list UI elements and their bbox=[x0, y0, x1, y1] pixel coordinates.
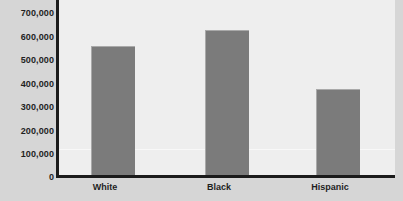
y-tick-label-100000: 100,000 bbox=[0, 149, 54, 159]
bar-chart-figure: 700,000 600,000 500,000 400,000 300,000 … bbox=[0, 0, 403, 201]
x-category-label-black: Black bbox=[183, 182, 255, 193]
x-category-label-hispanic: Hispanic bbox=[294, 182, 366, 193]
y-axis-line bbox=[56, 0, 59, 178]
y-tick-label-600000: 600,000 bbox=[0, 32, 54, 42]
bar-black bbox=[205, 30, 249, 176]
bar-white bbox=[91, 46, 135, 176]
y-tick-label-0: 0 bbox=[0, 172, 54, 182]
x-axis-line bbox=[56, 175, 395, 178]
y-tick-label-400000: 400,000 bbox=[0, 79, 54, 89]
y-tick-label-500000: 500,000 bbox=[0, 55, 54, 65]
y-tick-label-700000: 700,000 bbox=[0, 8, 54, 18]
y-tick-label-300000: 300,000 bbox=[0, 102, 54, 112]
y-axis-tick-labels: 700,000 600,000 500,000 400,000 300,000 … bbox=[0, 0, 54, 201]
x-category-label-white: White bbox=[69, 182, 141, 193]
y-tick-label-200000: 200,000 bbox=[0, 126, 54, 136]
plot-area bbox=[58, 0, 395, 176]
bar-hispanic bbox=[316, 89, 360, 176]
